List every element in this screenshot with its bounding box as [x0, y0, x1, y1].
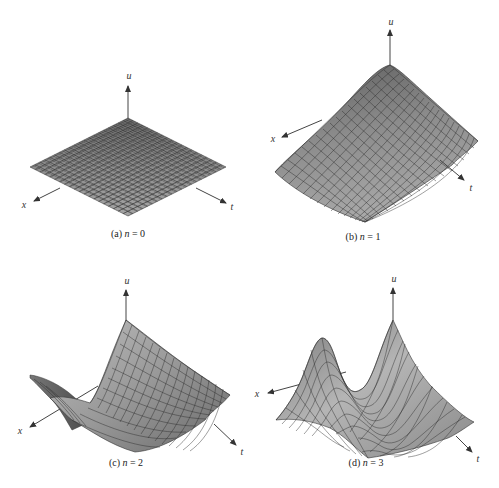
figure-canvas: [0, 0, 499, 488]
panel-d: [268, 288, 474, 458]
caption-value: = 3: [370, 457, 383, 468]
caption-label: (b): [346, 231, 358, 242]
t-axis-arrow: [456, 436, 472, 452]
caption-value: = 2: [130, 457, 143, 468]
panel-a: [30, 86, 226, 216]
t-axis-label: t: [241, 446, 244, 457]
t-axis-label: t: [470, 182, 473, 193]
surface-peak: [50, 320, 230, 452]
caption-a: (a) n = 0: [111, 228, 145, 239]
u-axis-label: u: [127, 70, 132, 81]
caption-value: = 0: [132, 228, 145, 239]
x-axis-label: x: [22, 199, 26, 210]
caption-variable: n: [124, 228, 129, 239]
caption-d: (d) n = 3: [349, 457, 384, 468]
caption-label: (a): [111, 228, 122, 239]
caption-variable: n: [363, 457, 368, 468]
t-axis-arrow: [214, 424, 236, 445]
panel-c: [30, 290, 236, 452]
u-axis-label: u: [389, 16, 394, 27]
t-axis-label: t: [477, 453, 480, 464]
caption-variable: n: [360, 231, 365, 242]
x-axis-label: x: [18, 425, 22, 436]
caption-c: (c) n = 2: [109, 457, 143, 468]
caption-b: (b) n = 1: [346, 231, 381, 242]
u-axis-label: u: [392, 273, 397, 284]
t-axis-arrow: [196, 188, 226, 203]
caption-label: (c): [109, 457, 120, 468]
caption-value: = 1: [367, 231, 380, 242]
caption-label: (d): [349, 457, 361, 468]
caption-variable: n: [122, 457, 127, 468]
surface-peak: [275, 65, 478, 222]
x-axis-arrow: [34, 188, 60, 201]
panel-b: [275, 30, 478, 222]
surface-two-peaks: [276, 320, 474, 458]
x-axis-label: x: [271, 133, 275, 144]
x-axis-label: x: [255, 388, 259, 399]
u-axis-label: u: [125, 275, 130, 286]
surface-gridlines: [30, 118, 226, 216]
t-axis-label: t: [231, 201, 234, 212]
